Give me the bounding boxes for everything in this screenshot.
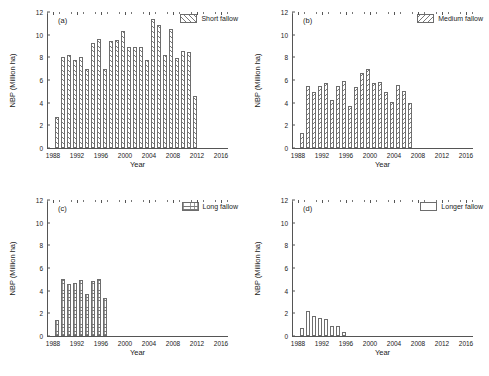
- x-minor-tick-mark: [436, 12, 437, 14]
- x-tick-mark: [322, 200, 323, 203]
- bar: [97, 39, 102, 148]
- x-minor-tick-mark: [95, 12, 96, 14]
- bar: [61, 279, 66, 336]
- bar: [55, 117, 60, 148]
- x-minor-tick-mark: [119, 200, 120, 202]
- x-tick-label: 1996: [339, 152, 353, 159]
- x-tick-mark: [346, 12, 347, 15]
- x-minor-tick-mark: [472, 12, 473, 14]
- panel-a-short-fallow: (a) Short fallow NBP (Million ha) 024681…: [0, 0, 244, 188]
- x-minor-tick-mark: [352, 12, 353, 14]
- x-minor-tick-mark: [328, 200, 329, 202]
- y-tick-label: 2: [258, 122, 288, 129]
- x-tick-mark: [418, 200, 419, 203]
- x-minor-tick-mark: [376, 12, 377, 14]
- bar: [151, 19, 156, 148]
- bar: [306, 86, 311, 148]
- x-tick-mark: [394, 12, 395, 15]
- y-tick-label: 12: [13, 9, 43, 16]
- y-tick-mark: [47, 148, 50, 149]
- y-tick-mark: [47, 313, 50, 314]
- bar: [97, 279, 102, 336]
- x-minor-tick-mark: [47, 12, 48, 14]
- y-tick-mark: [292, 313, 295, 314]
- y-tick-label: 4: [13, 287, 43, 294]
- x-tick-mark: [101, 200, 102, 203]
- x-minor-tick-mark: [400, 12, 401, 14]
- bar: [390, 102, 395, 148]
- y-tick-mark: [47, 268, 50, 269]
- bar: [145, 60, 150, 148]
- x-minor-tick-mark: [460, 12, 461, 14]
- y-tick-label: 2: [258, 310, 288, 317]
- x-tick-label: 2008: [166, 152, 180, 159]
- y-tick-label: 8: [13, 242, 43, 249]
- x-tick-mark: [77, 12, 78, 15]
- y-tick-label: 10: [13, 219, 43, 226]
- x-tick-mark: [53, 12, 54, 15]
- y-tick-mark: [292, 80, 295, 81]
- x-minor-tick-mark: [424, 200, 425, 202]
- y-tick-mark: [292, 290, 295, 291]
- x-tick-label: 2012: [435, 152, 449, 159]
- x-minor-tick-mark: [167, 200, 168, 202]
- x-minor-tick-mark: [436, 200, 437, 202]
- bar: [79, 57, 84, 148]
- bar: [55, 320, 60, 336]
- x-minor-tick-mark: [472, 200, 473, 202]
- y-tick-mark: [292, 148, 295, 149]
- x-tick-label: 2008: [166, 340, 180, 347]
- x-tick-label: 2008: [411, 152, 425, 159]
- y-tick-label: 0: [13, 333, 43, 340]
- x-minor-tick-mark: [412, 12, 413, 14]
- bar: [300, 133, 305, 148]
- bar: [139, 47, 144, 148]
- bar: [324, 319, 329, 336]
- x-tick-mark: [77, 200, 78, 203]
- x-tick-label: 2016: [459, 152, 473, 159]
- bar: [109, 41, 114, 148]
- x-tick-label: 1988: [46, 340, 60, 347]
- panel-c-x-axis-label: Year: [47, 348, 228, 357]
- x-tick-mark: [101, 12, 102, 15]
- x-tick-label: 1988: [291, 340, 305, 347]
- x-tick-label: 2016: [459, 340, 473, 347]
- y-tick-label: 6: [13, 77, 43, 84]
- x-tick-mark: [418, 12, 419, 15]
- x-minor-tick-mark: [155, 200, 156, 202]
- x-tick-label: 1996: [94, 340, 108, 347]
- x-minor-tick-mark: [316, 12, 317, 14]
- x-tick-label: 1992: [315, 340, 329, 347]
- x-tick-mark: [466, 12, 467, 15]
- y-tick-mark: [47, 222, 50, 223]
- y-tick-label: 0: [13, 145, 43, 152]
- panel-d-x-axis-label: Year: [292, 348, 473, 357]
- bar: [157, 25, 162, 148]
- y-tick-mark: [292, 102, 295, 103]
- x-tick-label: 1992: [70, 152, 84, 159]
- bar: [73, 60, 78, 148]
- bar: [348, 106, 353, 149]
- x-tick-label: 2000: [363, 340, 377, 347]
- y-tick-mark: [292, 245, 295, 246]
- x-tick-mark: [149, 200, 150, 203]
- bar: [85, 69, 90, 148]
- bar: [169, 29, 174, 148]
- x-minor-tick-mark: [179, 12, 180, 14]
- x-tick-label: 1988: [291, 152, 305, 159]
- x-tick-mark: [197, 200, 198, 203]
- y-tick-label: 10: [258, 31, 288, 38]
- y-tick-label: 8: [258, 54, 288, 61]
- bar: [127, 47, 132, 148]
- x-tick-label: 2000: [118, 340, 132, 347]
- panel-a-x-axis-label: Year: [47, 160, 228, 169]
- bar: [408, 103, 413, 148]
- x-minor-tick-mark: [131, 200, 132, 202]
- x-tick-label: 1992: [70, 340, 84, 347]
- bar: [181, 51, 186, 148]
- bar: [85, 294, 90, 336]
- x-minor-tick-mark: [328, 12, 329, 14]
- x-minor-tick-mark: [83, 200, 84, 202]
- x-tick-label: 2004: [142, 340, 156, 347]
- bar: [330, 326, 335, 336]
